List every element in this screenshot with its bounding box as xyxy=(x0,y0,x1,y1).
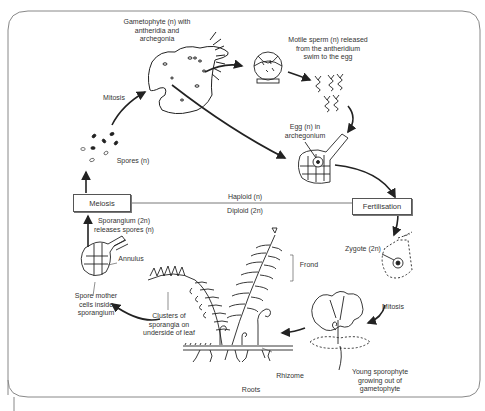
mitosis-bottom-label: Mitosis xyxy=(375,303,411,312)
young-sporophyte-label: Young sporophyte growing out of gametoph… xyxy=(340,368,420,394)
zygote-drawing xyxy=(382,232,412,278)
spores-label: Spores (n) xyxy=(110,157,156,166)
frond-label: Frond xyxy=(296,261,322,270)
annulus-label: Annulus xyxy=(113,255,149,264)
spore-mother-cells-label: Spore mother cells inside sporangium xyxy=(68,292,124,318)
diploid-label: Diploid (2n) xyxy=(215,207,275,216)
meiosis-box: Meiosis xyxy=(73,194,131,212)
arrow-fertilisation-to-zygote xyxy=(394,213,398,235)
gametophyte-drawing xyxy=(148,32,228,114)
sperm-drawing xyxy=(315,74,343,112)
arrow-sperm-to-egg xyxy=(348,106,353,132)
sporangia-clusters-label: Clusters of sporangia on underside of le… xyxy=(137,312,201,338)
zygote-label: Zygote (2n) xyxy=(338,245,388,254)
arrow-young-sporophyte-to-fern xyxy=(282,328,305,333)
sperm-label: Motile sperm (n) released from the anthe… xyxy=(278,36,378,62)
archegonium-drawing xyxy=(298,134,348,183)
fern-life-cycle-diagram: Meiosis Fertilisation Haploid (n) Diploi… xyxy=(0,0,485,411)
haploid-label: Haploid (n) xyxy=(215,193,275,202)
arrow-antheridium-to-sperm xyxy=(288,72,310,80)
young-sporophyte-drawing xyxy=(310,291,370,370)
fertilisation-box: Fertilisation xyxy=(352,198,412,215)
fertilisation-label: Fertilisation xyxy=(363,202,401,211)
rhizome-label: Rhizome xyxy=(272,372,308,381)
mature-fern-drawing xyxy=(148,228,293,362)
sporangium-label: Sporangium (2n) releases spores (n) xyxy=(88,217,160,234)
arrow-gametophyte-to-egg xyxy=(172,85,285,158)
egg-label: Egg (n) in archegonium xyxy=(280,123,330,140)
gametophyte-label: Gametophyte (n) with antheridia and arch… xyxy=(112,18,202,44)
arrow-gametophyte-to-antheridium xyxy=(205,65,242,72)
mitosis-top-label: Mitosis xyxy=(96,94,132,103)
arrow-egg-to-fertilisation xyxy=(335,165,395,197)
roots-label: Roots xyxy=(236,386,266,395)
meiosis-label: Meiosis xyxy=(89,199,114,208)
